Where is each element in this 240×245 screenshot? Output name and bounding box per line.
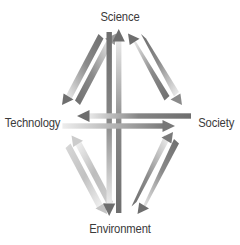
arrow-group-lower-left: [66, 136, 114, 215]
arrow-environment-to-society: [132, 132, 174, 207]
node-label-science: Science: [99, 10, 142, 25]
arrow-environment-to-science: [113, 29, 125, 213]
node-label-environment: Environment: [87, 222, 152, 237]
arrow-group-vertical: [103, 29, 125, 216]
arrow-society-to-technology: [77, 110, 191, 122]
arrow-group-horizontal: [58, 110, 191, 132]
node-label-society: Society: [196, 115, 236, 130]
arrow-group-lower-right: [132, 132, 180, 214]
node-label-technology: Technology: [3, 115, 62, 130]
arrow-group-upper-right: [128, 34, 182, 106]
diagram-canvas: Science Technology Society Environment: [0, 0, 240, 245]
